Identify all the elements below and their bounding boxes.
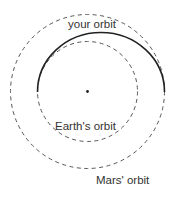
- earth-orbit-label: Earth's orbit: [55, 121, 116, 133]
- orbit-diagram: your orbit Earth's orbit Mars' orbit: [0, 0, 184, 197]
- mars-orbit-label: Mars' orbit: [96, 175, 149, 187]
- sun-dot: [86, 90, 89, 93]
- your-orbit-label: your orbit: [68, 19, 116, 31]
